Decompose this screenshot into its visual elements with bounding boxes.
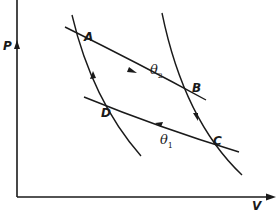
y-axis-arrow-icon: [14, 40, 20, 49]
x-axis-label: V: [252, 200, 261, 212]
isotherm-label-theta2: θ2: [150, 63, 163, 80]
point-label-b: B: [192, 82, 201, 94]
theta-subscript: 1: [168, 141, 173, 150]
adiabat-right: [162, 13, 242, 175]
y-axis-label: P: [3, 40, 12, 52]
theta-subscript: 2: [158, 71, 163, 80]
arrow-a-to-b-icon: [127, 67, 137, 73]
theta-symbol: θ: [150, 62, 158, 77]
point-label-a: A: [84, 31, 93, 43]
theta-symbol: θ: [160, 132, 168, 147]
point-label-c: C: [213, 135, 222, 147]
pv-diagram: [0, 0, 280, 216]
x-axis-arrow-icon: [266, 194, 276, 201]
point-label-d: D: [101, 107, 111, 119]
isotherm-label-theta1: θ1: [160, 133, 173, 150]
arrow-b-to-c-icon: [193, 113, 198, 121]
